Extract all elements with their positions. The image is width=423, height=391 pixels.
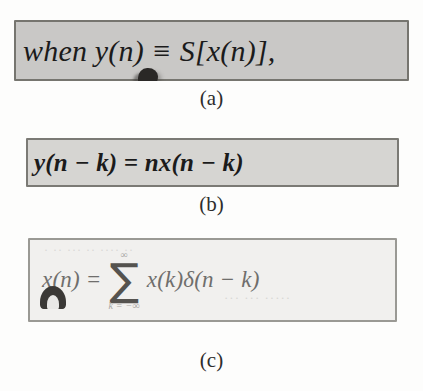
equation-text-a: when y(n) ≡ S[x(n)], — [14, 20, 409, 81]
equation-panel-a: when y(n) ≡ S[x(n)], — [14, 20, 409, 81]
panel-caption-a: (a) — [0, 86, 423, 111]
equation-text-b: y(n − k) = nx(n − k) — [26, 138, 399, 187]
summation-lhs: x(n) = — [42, 267, 102, 293]
sigma-icon: ∑ — [109, 260, 139, 300]
equation-text-c: x(n) = ∞ ∑ k = −∞ x(k)δ(n − k) — [28, 238, 397, 322]
summation-rhs: x(k)δ(n − k) — [147, 267, 260, 293]
panel-caption-c: (c) — [0, 348, 423, 373]
equation-panel-c: · ·· ··· ·· ···· ·· ··· ··· ····· x(n) =… — [28, 238, 397, 322]
summation-lower-limit: k = −∞ — [109, 300, 140, 311]
equation-panel-b: y(n − k) = nx(n − k) — [26, 138, 399, 187]
panel-caption-b: (b) — [0, 192, 423, 217]
summation-operator: ∞ ∑ k = −∞ — [107, 249, 142, 311]
summation-expression: x(n) = ∞ ∑ k = −∞ x(k)δ(n − k) — [42, 249, 260, 311]
figure-root: when y(n) ≡ S[x(n)], (a) y(n − k) = nx(n… — [0, 0, 423, 391]
